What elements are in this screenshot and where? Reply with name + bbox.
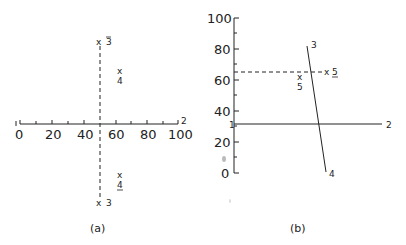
svg-text:60: 60 xyxy=(214,73,231,88)
panel-a-caption: (a) xyxy=(90,222,105,235)
panel-a-point-top: x 3 xyxy=(96,37,112,47)
panel-b-line-top-label: 3 xyxy=(311,40,317,50)
panel-b-point-left: x 5 xyxy=(297,72,303,92)
panel-a: 2 0 20 40 60 80 100 x 3 x 4 x 4 x 3 xyxy=(15,37,193,235)
svg-text:3: 3 xyxy=(106,37,112,47)
panel-b-point-right: x 5 xyxy=(324,67,338,77)
panel-a-point-upper-right: x 4 xyxy=(117,66,123,86)
smudge xyxy=(222,156,226,162)
svg-text:100: 100 xyxy=(207,11,232,26)
svg-text:20: 20 xyxy=(214,135,231,150)
panel-a-point-bottom: x 3 xyxy=(96,198,112,208)
svg-text:x: x xyxy=(324,67,330,77)
svg-text:5: 5 xyxy=(297,82,303,92)
svg-text:80: 80 xyxy=(140,127,157,142)
svg-text:4: 4 xyxy=(117,76,123,86)
svg-text:80: 80 xyxy=(214,42,231,57)
panel-b-diagonal-line xyxy=(307,46,326,172)
svg-text:100: 100 xyxy=(168,127,193,142)
svg-text:20: 20 xyxy=(45,127,62,142)
panel-b-line-start-label: 1 xyxy=(229,120,235,130)
panel-a-tick-labels: 0 20 40 60 80 100 xyxy=(15,127,193,142)
svg-text:x: x xyxy=(96,198,102,208)
svg-text:60: 60 xyxy=(108,127,125,142)
smudge xyxy=(229,199,231,203)
svg-text:40: 40 xyxy=(214,104,231,119)
panel-a-axis-end-label: 2 xyxy=(181,116,187,126)
svg-text:40: 40 xyxy=(77,127,94,142)
svg-text:x: x xyxy=(297,72,303,82)
panel-a-ticks xyxy=(20,120,178,124)
diagram-canvas: 2 0 20 40 60 80 100 x 3 x 4 x 4 x 3 xyxy=(0,0,406,245)
panel-b: 0 20 40 60 80 100 1 2 3 4 x 5 x 5 (b) xyxy=(207,11,392,235)
svg-text:0: 0 xyxy=(15,127,23,142)
svg-text:5: 5 xyxy=(332,67,338,77)
panel-a-point-lower-right: x 4 xyxy=(117,170,123,190)
panel-b-line-end-label: 2 xyxy=(386,120,392,130)
svg-text:0: 0 xyxy=(221,166,229,181)
svg-text:4: 4 xyxy=(117,180,123,190)
panel-b-caption: (b) xyxy=(290,222,306,235)
svg-text:x: x xyxy=(117,66,123,76)
svg-text:x: x xyxy=(96,37,102,47)
panel-b-line-bottom-label: 4 xyxy=(329,169,335,179)
panel-b-tick-labels: 0 20 40 60 80 100 xyxy=(207,11,232,181)
panel-b-ticks xyxy=(234,18,239,173)
svg-text:3: 3 xyxy=(106,198,112,208)
svg-text:x: x xyxy=(117,170,123,180)
